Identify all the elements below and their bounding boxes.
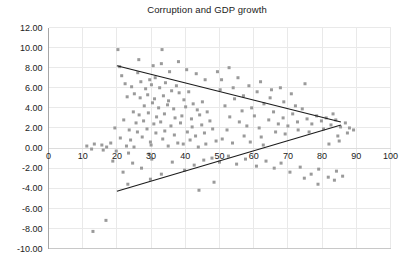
data-point	[255, 165, 258, 168]
data-point	[109, 142, 112, 145]
x-tick-label: 30	[146, 151, 156, 161]
data-point	[306, 117, 309, 120]
data-point	[167, 99, 170, 102]
data-point	[249, 141, 252, 144]
chart-container: Corruption and GDP growth 12.0010.008.00…	[0, 0, 414, 263]
data-point	[238, 120, 241, 123]
data-point	[192, 102, 195, 105]
data-point	[146, 127, 149, 130]
data-point	[182, 143, 185, 146]
data-point	[164, 81, 167, 84]
data-point	[291, 112, 294, 115]
data-point	[269, 96, 272, 99]
y-tick-label: -6.00	[22, 204, 43, 214]
data-point	[341, 175, 344, 178]
data-point	[163, 129, 166, 132]
data-point	[247, 84, 250, 87]
data-point	[135, 121, 138, 124]
data-point	[202, 159, 205, 162]
y-tick-label: -8.00	[22, 224, 43, 234]
x-tick-label: 40	[180, 151, 190, 161]
data-point	[130, 85, 133, 88]
trend-line	[117, 66, 341, 122]
data-point	[174, 116, 177, 119]
data-point	[195, 72, 198, 75]
data-point	[220, 78, 223, 81]
data-point	[228, 66, 231, 69]
data-point	[161, 138, 164, 141]
data-point	[161, 48, 164, 51]
data-point	[329, 123, 332, 126]
data-point	[122, 171, 125, 174]
data-point	[124, 82, 127, 85]
data-point	[182, 98, 185, 101]
data-point	[303, 177, 306, 180]
data-point	[201, 100, 204, 103]
data-point	[122, 118, 125, 121]
data-point	[226, 128, 229, 131]
data-point	[171, 161, 174, 164]
data-point	[157, 106, 160, 109]
data-point	[282, 116, 285, 119]
x-tick-label: 70	[283, 151, 293, 161]
data-point	[139, 80, 142, 83]
data-point	[332, 112, 335, 115]
data-point	[147, 111, 150, 114]
data-point	[177, 60, 180, 63]
data-point	[176, 142, 179, 145]
data-point	[179, 121, 182, 124]
data-point	[215, 140, 218, 143]
x-tick-label: 20	[112, 151, 122, 161]
data-point	[133, 146, 136, 149]
data-point	[333, 179, 336, 182]
data-point	[296, 120, 299, 123]
data-point	[172, 107, 175, 110]
data-point	[127, 152, 130, 155]
data-point	[210, 157, 213, 160]
data-point	[152, 122, 155, 125]
data-point	[128, 128, 131, 131]
data-point	[211, 127, 214, 130]
data-point	[120, 74, 123, 77]
data-point	[168, 70, 171, 73]
data-point	[327, 143, 330, 146]
data-point	[253, 114, 256, 117]
data-point	[154, 131, 157, 134]
data-point	[335, 170, 338, 173]
y-tick-label: 0.00	[25, 143, 43, 153]
x-tick-label: 10	[78, 151, 88, 161]
data-point	[150, 144, 153, 147]
data-point	[299, 166, 302, 169]
data-point	[178, 91, 181, 94]
data-point	[119, 137, 122, 140]
data-point	[140, 167, 143, 170]
data-point	[245, 124, 248, 127]
data-point	[279, 86, 282, 89]
data-points	[85, 48, 355, 233]
data-point	[200, 123, 203, 126]
data-point	[162, 94, 165, 97]
data-point	[166, 103, 169, 106]
data-point	[284, 132, 287, 135]
data-point	[193, 164, 196, 167]
data-point	[198, 113, 201, 116]
data-point	[160, 62, 163, 65]
data-point	[223, 104, 226, 107]
data-point	[227, 155, 230, 158]
data-point	[159, 120, 162, 123]
data-point	[204, 143, 207, 146]
data-point	[180, 114, 183, 117]
data-point	[213, 181, 216, 184]
data-point	[286, 124, 289, 127]
data-point	[327, 176, 330, 179]
data-point	[346, 131, 349, 134]
data-point	[149, 178, 152, 181]
data-point	[105, 146, 108, 149]
x-tick-label: 80	[317, 151, 327, 161]
scatter-plot: 12.0010.008.006.004.002.000.00-2.00-4.00…	[0, 0, 414, 263]
data-point	[221, 138, 224, 141]
data-point	[142, 119, 145, 122]
y-tick-label: 2.00	[25, 123, 43, 133]
data-point	[232, 86, 235, 89]
data-point	[102, 149, 105, 152]
